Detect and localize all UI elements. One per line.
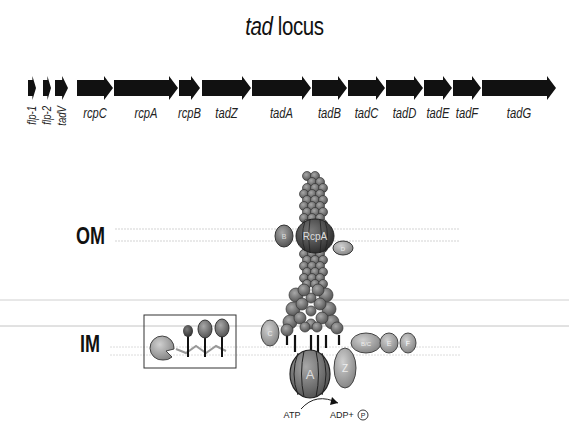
tadA-label: A	[306, 367, 315, 382]
gene-label-tadD: tadD	[393, 106, 417, 121]
tadA-atpase: A	[290, 350, 330, 398]
adp-label: ADP+	[330, 410, 354, 420]
tadF-protein: F	[400, 333, 416, 353]
gene-label-flp-2: flp-2	[40, 106, 53, 125]
gene-labels: flp-1flp-2tadVrcpCrcpArcpBtadZtadAtadBta…	[25, 104, 531, 125]
gene-arrow-rcpA	[114, 76, 178, 100]
gene-label-tadV: tadV	[54, 104, 67, 125]
phosphate-label: P	[361, 412, 366, 419]
gene-arrows	[28, 76, 556, 100]
gene-arrow-tadG	[482, 76, 556, 100]
tadZ-label: Z	[342, 363, 348, 374]
tadD-protein: D	[333, 241, 353, 255]
tadE-protein: E	[380, 333, 398, 353]
outer-membrane-label: OM	[76, 222, 105, 250]
gene-label-tadA: tadA	[270, 106, 293, 121]
gene-label-tadG: tadG	[507, 106, 531, 121]
tadV-peptidase	[150, 336, 174, 360]
inner-membrane-label: IM	[80, 330, 100, 358]
gene-label-tadB: tadB	[318, 106, 341, 121]
prepilin-processing-box	[144, 315, 236, 368]
tadZ-protein: Z	[334, 348, 356, 388]
gene-arrow-tadV	[55, 76, 68, 100]
rcpC-protein: C	[261, 320, 279, 346]
gene-label-rcpB: rcpB	[178, 106, 201, 121]
tadBC-label: B/C	[361, 341, 372, 347]
pilin-cluster	[281, 284, 343, 355]
rcpC-label: C	[267, 330, 272, 337]
gene-arrow-flp-2	[43, 76, 51, 100]
gene-arrow-tadC	[348, 76, 385, 100]
tadD-label: D	[341, 246, 346, 252]
prepilin-3	[215, 319, 229, 357]
gene-arrow-tadE	[424, 76, 452, 100]
gene-label-rcpA: rcpA	[135, 106, 158, 121]
gene-arrow-tadF	[453, 76, 481, 100]
gene-label-tadE: tadE	[426, 106, 449, 121]
gene-label-tadC: tadC	[355, 106, 379, 121]
gene-arrow-tadA	[252, 76, 311, 100]
gene-label-rcpC: rcpC	[83, 106, 107, 121]
gene-arrow-tadD	[386, 76, 423, 100]
tadE-label: E	[387, 340, 392, 347]
gene-arrow-flp-1	[28, 76, 36, 100]
atp-label: ATP	[284, 410, 301, 420]
gene-arrow-tadZ	[202, 76, 251, 100]
gene-label-flp-1: flp-1	[25, 106, 38, 125]
gene-arrow-tadB	[312, 76, 347, 100]
atp-reaction: ATP ADP+ P	[284, 397, 368, 420]
rcpA-label: RcpA	[303, 231, 328, 242]
gene-label-tadZ: tadZ	[215, 106, 238, 121]
rcpB-protein: B	[275, 225, 293, 247]
rcpB-label: B	[282, 233, 287, 240]
rcpA-secretin: RcpA	[296, 219, 334, 253]
gene-arrow-rcpB	[179, 76, 200, 100]
tadF-label: F	[406, 340, 410, 347]
tad-locus-diagram: flp-1flp-2tadVrcpCrcpArcpBtadZtadAtadBta…	[0, 0, 569, 437]
gene-label-tadF: tadF	[456, 106, 479, 121]
gene-arrow-rcpC	[77, 76, 113, 100]
tadBC-protein: B/C	[351, 333, 381, 353]
